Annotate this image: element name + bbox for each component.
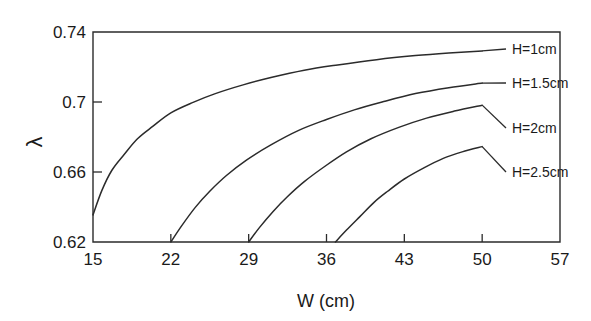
x-tick-label: 43: [395, 250, 414, 269]
series-leader-line: [482, 49, 506, 51]
x-tick-label: 50: [473, 250, 492, 269]
series-labels-group: H=1cmH=1.5cmH=2cmH=2.5cm: [482, 41, 568, 180]
series-label-h-1cm: H=1cm: [512, 41, 557, 57]
series-leader-line: [482, 147, 506, 172]
y-tick-label: 0.7: [62, 93, 86, 112]
series-label-h-2-5cm: H=2.5cm: [512, 164, 568, 180]
x-tick-label: 15: [84, 250, 103, 269]
data-curve-h-2cm: [249, 105, 483, 242]
data-curve-h-2-5cm: [335, 147, 482, 242]
figure-container: 15222936435057 0.620.660.70.74 H=1cmH=1.…: [0, 0, 591, 321]
y-axis-ticks: [93, 102, 102, 172]
series-leader-line: [482, 105, 506, 128]
series-label-h-2cm: H=2cm: [512, 120, 557, 136]
y-tick-label: 0.66: [53, 163, 86, 182]
y-axis-tick-labels: 0.620.660.70.74: [53, 23, 86, 252]
y-tick-label: 0.74: [53, 23, 86, 42]
data-curve-h-1cm: [93, 51, 482, 215]
x-tick-label: 57: [551, 250, 570, 269]
x-axis-ticks: [171, 234, 482, 242]
chart-plot: 15222936435057 0.620.660.70.74 H=1cmH=1.…: [0, 0, 591, 321]
x-axis-title: W (cm): [297, 291, 355, 311]
x-tick-label: 22: [161, 250, 180, 269]
y-axis-title: λ: [22, 137, 47, 148]
x-tick-label: 36: [317, 250, 336, 269]
y-tick-label: 0.62: [53, 233, 86, 252]
series-label-h-1-5cm: H=1.5cm: [512, 75, 568, 91]
x-axis-tick-labels: 15222936435057: [84, 250, 570, 269]
data-series-group: [93, 51, 482, 242]
x-tick-label: 29: [239, 250, 258, 269]
plot-frame: [93, 32, 560, 242]
